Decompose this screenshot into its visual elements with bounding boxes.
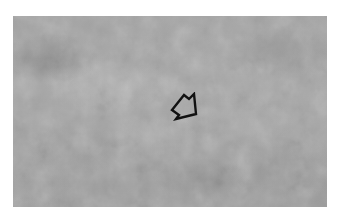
photo-frame bbox=[13, 16, 327, 207]
arrow-annotation-icon bbox=[170, 92, 200, 124]
